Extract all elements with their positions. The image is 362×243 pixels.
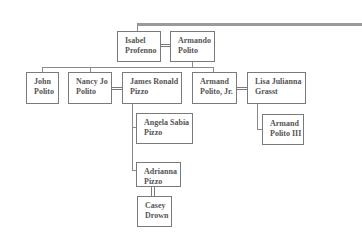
person-john-polito: John Polito [26, 72, 59, 104]
person-james-ronald-pizzo: James Ronald Pizzo [122, 72, 182, 104]
person-nancy-jo-polito: Nancy Jo Polito [68, 72, 112, 104]
first-name: Armand [270, 119, 303, 129]
connector-line [137, 23, 138, 31]
last-name: Polito [34, 87, 58, 97]
person-isabel-profenno: Isabel Profenno [117, 31, 161, 62]
sibling-bar [42, 67, 214, 68]
marriage-connector [237, 87, 247, 90]
last-name: Polito [178, 46, 214, 56]
person-adrianna-pizzo: Adrianna Pizzo [136, 162, 181, 187]
last-name: Polito, Jr. [200, 87, 236, 97]
person-casey-drown: Casey Drown [137, 196, 172, 227]
last-name: Grasst [255, 87, 305, 97]
first-name: Adrianna [144, 167, 180, 177]
last-name: Pizzo [144, 177, 180, 187]
last-name: Pizzo [130, 87, 181, 97]
marriage-connector [161, 44, 170, 47]
ancestor-connector-line [137, 23, 362, 26]
connector-line [132, 104, 133, 171]
connector-line [257, 104, 258, 130]
person-angela-sabia-pizzo: Angela Sabia Pizzo [136, 113, 193, 144]
person-armand-polito-iii: Armand Polito III [262, 114, 304, 145]
person-lisa-julianna-grasst: Lisa Julianna Grasst [247, 72, 306, 104]
first-name: Nancy Jo [76, 77, 111, 87]
first-name: Lisa Julianna [255, 77, 305, 87]
first-name: Isabel [125, 36, 160, 46]
marriage-connector [151, 187, 155, 196]
first-name: James Ronald [130, 77, 181, 87]
first-name: Casey [145, 201, 171, 211]
last-name: Polito III [270, 129, 303, 139]
last-name: Pizzo [144, 128, 192, 138]
last-name: Polito [76, 87, 111, 97]
last-name: Drown [145, 211, 171, 221]
first-name: John [34, 77, 58, 87]
first-name: Armand [200, 77, 236, 87]
person-armand-polito-jr: Armand Polito, Jr. [192, 72, 237, 104]
first-name: Armando [178, 36, 214, 46]
person-armando-polito: Armando Polito [170, 31, 215, 62]
first-name: Angela Sabia [144, 118, 192, 128]
last-name: Profenno [125, 46, 160, 56]
marriage-connector [112, 87, 122, 90]
family-tree-diagram: Isabel Profenno Armando Polito John Poli… [0, 0, 362, 243]
